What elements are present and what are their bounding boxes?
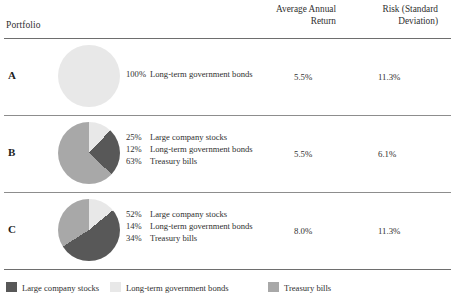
- portfolio-table: Portfolio Average Annual Return Risk (St…: [0, 0, 455, 303]
- pie-chart-c: [58, 199, 120, 261]
- composition-list-a: 100%Long-term government bonds: [126, 69, 253, 81]
- row-label-b: B: [8, 146, 15, 158]
- table-row: B 25%Large company stocks 12%Long-term g…: [0, 115, 455, 192]
- composition-name: Treasury bills: [150, 156, 197, 166]
- legend-label: Treasury bills: [284, 283, 331, 293]
- row-label-a: A: [8, 69, 16, 81]
- composition-item: 63%Treasury bills: [126, 156, 253, 168]
- table-header: Portfolio Average Annual Return Risk (St…: [0, 0, 455, 38]
- composition-percent: 34%: [126, 233, 150, 245]
- value-average-annual-return-b: 5.5%: [294, 149, 312, 159]
- legend-item-treasury-bills: Treasury bills: [268, 277, 331, 291]
- composition-name: Long-term government bonds: [150, 221, 253, 231]
- column-header-average-annual-return: Average Annual Return: [268, 4, 336, 27]
- composition-item: 34%Treasury bills: [126, 233, 253, 245]
- legend-swatch-stocks-icon: [6, 282, 17, 292]
- legend-swatch-bonds-icon: [110, 282, 121, 292]
- composition-list-b: 25%Large company stocks 12%Long-term gov…: [126, 132, 253, 167]
- pie-chart-b: [58, 122, 120, 184]
- legend-label: Long-term government bonds: [126, 283, 229, 293]
- legend-item-large-company-stocks: Large company stocks: [6, 277, 99, 291]
- column-header-risk-line2: Deviation): [360, 16, 438, 28]
- legend-item-long-term-government-bonds: Long-term government bonds: [110, 277, 229, 291]
- composition-name: Large company stocks: [150, 209, 227, 219]
- column-header-return-line2: Return: [268, 16, 336, 28]
- column-header-return-line1: Average Annual: [268, 4, 336, 16]
- legend-label: Large company stocks: [22, 283, 99, 293]
- composition-name: Treasury bills: [150, 233, 197, 243]
- composition-percent: 52%: [126, 209, 150, 221]
- legend-swatch-tbills-icon: [268, 282, 279, 292]
- value-risk-c: 11.3%: [378, 226, 400, 236]
- composition-item: 100%Long-term government bonds: [126, 69, 253, 81]
- composition-name: Large company stocks: [150, 132, 227, 142]
- composition-name: Long-term government bonds: [150, 144, 253, 154]
- composition-percent: 63%: [126, 156, 150, 168]
- column-header-portfolio: Portfolio: [6, 20, 41, 30]
- composition-name: Long-term government bonds: [150, 69, 253, 79]
- composition-percent: 12%: [126, 144, 150, 156]
- row-label-c: C: [8, 223, 16, 235]
- pie-chart-a: [58, 45, 120, 107]
- value-risk-a: 11.3%: [378, 72, 400, 82]
- composition-item: 25%Large company stocks: [126, 132, 253, 144]
- composition-list-c: 52%Large company stocks 14%Long-term gov…: [126, 209, 253, 244]
- legend-divider: [4, 269, 451, 270]
- value-risk-b: 6.1%: [378, 149, 396, 159]
- column-header-risk-line1: Risk (Standard: [360, 4, 438, 16]
- value-average-annual-return-a: 5.5%: [294, 72, 312, 82]
- composition-percent: 14%: [126, 221, 150, 233]
- column-header-risk-standard-deviation: Risk (Standard Deviation): [360, 4, 438, 27]
- composition-percent: 25%: [126, 132, 150, 144]
- composition-item: 52%Large company stocks: [126, 209, 253, 221]
- table-row: C 52%Large company stocks 14%Long-term g…: [0, 192, 455, 269]
- table-row: A 100%Long-term government bonds 5.5% 11…: [0, 38, 455, 115]
- legend: Large company stocks Long-term governmen…: [0, 277, 455, 293]
- composition-item: 12%Long-term government bonds: [126, 144, 253, 156]
- value-average-annual-return-c: 8.0%: [294, 226, 312, 236]
- composition-item: 14%Long-term government bonds: [126, 221, 253, 233]
- composition-percent: 100%: [126, 69, 150, 81]
